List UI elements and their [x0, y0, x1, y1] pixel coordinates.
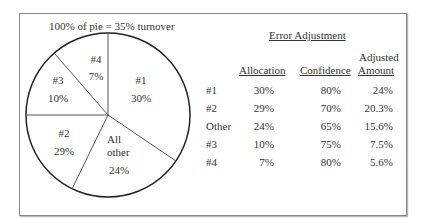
- slice-label-4: #4: [91, 53, 103, 65]
- slice-value-4: 7%: [89, 70, 104, 82]
- slice-value-1: 30%: [131, 92, 151, 104]
- table-cell: 7.5%: [357, 138, 393, 150]
- slice-label-other-2: other: [107, 146, 130, 158]
- table-cell: 80%: [316, 156, 341, 168]
- table-cell: 29%: [248, 102, 274, 114]
- table-title: Error Adjustment: [269, 29, 346, 41]
- table-cell: 30%: [248, 84, 274, 96]
- table-cell: 24%: [248, 120, 274, 132]
- row-label: Other: [206, 120, 236, 132]
- table-cell: 15.6%: [357, 120, 393, 132]
- table-cell: 70%: [316, 102, 341, 114]
- table-cell: 10%: [248, 138, 274, 150]
- chart-title: 100% of pie = 35% turnover: [49, 20, 175, 32]
- slice-value-2: 29%: [54, 145, 74, 157]
- slice-label-1: #1: [136, 74, 147, 86]
- header-allocation: Allocation: [239, 64, 285, 76]
- table-cell: 5.6%: [357, 156, 393, 168]
- row-label: #1: [206, 84, 236, 96]
- slice-label-3: #3: [53, 74, 65, 86]
- header-adjusted-2: Amount: [358, 64, 394, 76]
- row-label: #2: [206, 102, 236, 114]
- table-cell: 20.3%: [357, 102, 393, 114]
- table-cell: 24%: [357, 84, 393, 96]
- slice-value-other: 24%: [109, 164, 129, 176]
- table-cell: 65%: [316, 120, 341, 132]
- header-confidence: Confidence: [300, 64, 351, 76]
- table-cell: 80%: [316, 84, 341, 96]
- table-cell: 75%: [316, 138, 341, 150]
- slice-label-2: #2: [59, 127, 70, 139]
- slice-label-other-1: All: [107, 133, 121, 145]
- row-label: #4: [206, 156, 236, 168]
- row-label: #3: [206, 138, 236, 150]
- slice-value-3: 10%: [48, 92, 68, 104]
- table-cell: 7%: [248, 156, 274, 168]
- pie-divider-bottom: [72, 115, 108, 189]
- header-adjusted-1: Adjusted: [359, 51, 399, 63]
